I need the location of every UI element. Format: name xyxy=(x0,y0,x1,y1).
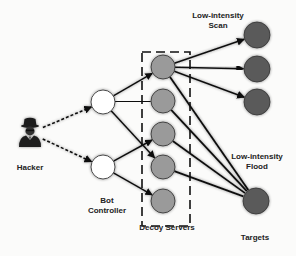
decoy-server-node xyxy=(151,55,175,79)
decoy-servers-label: Decoy Servers xyxy=(139,223,195,233)
bot-controller-node xyxy=(91,90,115,114)
targets-label: Targets xyxy=(241,233,269,243)
scan-arrow xyxy=(175,67,244,68)
hacker-icon xyxy=(19,118,41,147)
bot-controller-label: Bot Controller xyxy=(88,196,126,216)
bot-controller-label-line2: Controller xyxy=(88,206,126,216)
bot-to-decoy-arrow xyxy=(114,140,153,161)
decoy-server-node xyxy=(151,122,175,146)
hacker-label: Hacker xyxy=(17,163,44,173)
bot-controller-node xyxy=(91,155,115,179)
bot-to-decoy-arrow xyxy=(115,101,151,102)
scan-label-line2: Scan xyxy=(192,21,244,31)
low-intensity-flood-label: Low-intensity Flood xyxy=(231,152,283,172)
target-node xyxy=(243,188,269,214)
flood-label-line1: Low-intensity xyxy=(231,152,283,162)
flood-label-line2: Flood xyxy=(231,162,283,172)
decoy-attack-diagram: Hacker Bot Controller Decoy Servers Low-… xyxy=(0,0,296,256)
edges-layer xyxy=(43,39,249,201)
target-node xyxy=(244,89,270,115)
decoy-server-node xyxy=(151,89,175,113)
dashed-command-arrow xyxy=(43,139,92,162)
target-node xyxy=(244,22,270,48)
diagram-canvas xyxy=(0,0,296,256)
scan-label-line1: Low-intensity xyxy=(192,11,244,21)
bot-to-decoy-arrow xyxy=(113,173,152,195)
dashed-command-arrow xyxy=(43,107,92,128)
bot-controller-label-line1: Bot xyxy=(88,196,126,206)
low-intensity-scan-label: Low-intensity Scan xyxy=(192,11,244,31)
target-node xyxy=(244,56,270,82)
decoy-server-node xyxy=(151,189,175,213)
decoy-server-node xyxy=(151,155,175,179)
scan-arrow xyxy=(174,71,244,97)
bot-to-decoy-arrow xyxy=(113,73,152,96)
flood-line xyxy=(171,110,247,191)
